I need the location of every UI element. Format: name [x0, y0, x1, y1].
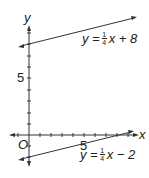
eq1-fraction: 1 4 [102, 31, 107, 46]
eq2-numerator: 1 [100, 147, 104, 154]
line1-arrow-right-icon [131, 16, 137, 20]
y-axis-arrow-down-icon [27, 161, 31, 167]
eq2-denominator: 4 [100, 155, 104, 162]
eq2-fraction: 1 4 [100, 147, 105, 162]
x-axis-label: x [139, 127, 146, 142]
line1-arrow-left-icon [18, 44, 24, 48]
x-axis-arrow-left-icon [9, 133, 15, 137]
eq1-prefix: y = [82, 31, 100, 46]
eq1-suffix: x + 8 [109, 31, 138, 46]
eq2-suffix: x − 2 [107, 147, 136, 162]
y-axis-label: y [24, 10, 31, 25]
eq1-numerator: 1 [102, 31, 106, 38]
equation-label-upper: y = 1 4 x + 8 [82, 31, 137, 46]
origin-label: O [18, 137, 28, 152]
line2-arrow-left-icon [18, 157, 24, 161]
equation-label-lower: y = 1 4 x − 2 [80, 147, 135, 162]
y-tick-label-5: 5 [17, 70, 24, 85]
y-axis-arrow-up-icon [27, 25, 31, 31]
eq2-prefix: y = [80, 147, 98, 162]
eq1-denominator: 4 [102, 39, 106, 46]
